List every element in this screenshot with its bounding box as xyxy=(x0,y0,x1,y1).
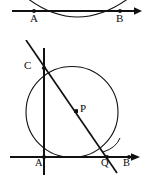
base-line-arrowhead-icon xyxy=(131,153,140,161)
figure-bottom: C P A Q B xyxy=(0,40,144,175)
point-C-marker xyxy=(42,66,46,70)
label-P: P xyxy=(80,103,86,114)
label-A-bottom: A xyxy=(35,158,43,169)
diagonal-line-CQ xyxy=(26,40,117,173)
label-B-bottom: B xyxy=(123,158,130,169)
label-A-top: A xyxy=(30,13,38,24)
line-AB-arrowhead-icon xyxy=(134,7,142,15)
figure-top: A B xyxy=(0,0,144,40)
circle-through-C-and-A xyxy=(26,67,118,158)
arc-fragment-near-Q xyxy=(103,138,120,152)
label-B-top: B xyxy=(116,13,123,24)
geometry-figure-sheet: A B C P A Q B xyxy=(0,0,144,175)
label-Q: Q xyxy=(101,158,109,169)
figure-bottom-canvas xyxy=(0,40,144,175)
label-C: C xyxy=(24,60,31,71)
arc-through-A-and-B xyxy=(27,0,129,17)
point-P-marker xyxy=(74,109,78,113)
